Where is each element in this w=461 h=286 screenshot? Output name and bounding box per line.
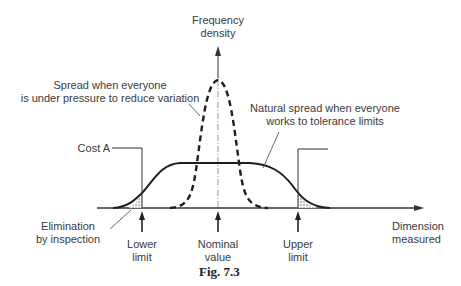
lower-limit-label-line2: limit <box>117 251 167 264</box>
x-axis-label: Dimension measured <box>392 220 458 246</box>
nominal-value-label: Nominal value <box>188 238 248 264</box>
figure-caption: Fig. 7.3 <box>199 264 240 280</box>
x-axis-arrowhead-icon <box>414 205 424 211</box>
y-axis-label: Frequency density <box>188 14 248 40</box>
narrow-spread-label: Spread when everyone is under pressure t… <box>20 79 200 105</box>
y-axis-label-line1: Frequency <box>188 14 248 27</box>
narrow-spread-label-line2: is under pressure to reduce variation <box>20 92 200 105</box>
lower-limit-line <box>112 148 142 208</box>
natural-spread-label-line2: works to tolerance limits <box>240 115 410 128</box>
lower-limit-label-line1: Lower <box>117 238 167 251</box>
upper-limit-arrow-icon <box>295 211 301 232</box>
elimination-leader <box>110 210 131 229</box>
elimination-label: Elimination by inspection <box>28 220 108 246</box>
elimination-label-line1: Elimination <box>28 220 108 233</box>
natural-spread-leader <box>263 132 279 168</box>
y-axis <box>215 46 221 208</box>
y-axis-arrowhead-icon <box>215 46 221 56</box>
y-axis-label-line2: density <box>188 27 248 40</box>
lower-limit-label: Lower limit <box>117 238 167 264</box>
natural-spread-label: Natural spread when everyone works to to… <box>240 102 410 128</box>
nominal-value-label-line1: Nominal <box>188 238 248 251</box>
nominal-value-arrow-icon <box>215 211 221 232</box>
lower-limit-arrow-icon <box>139 211 145 232</box>
upper-limit-label-line2: limit <box>273 251 323 264</box>
narrow-spread-leader <box>189 104 200 116</box>
upper-limit-label: Upper limit <box>273 238 323 264</box>
upper-limit-label-line1: Upper <box>273 238 323 251</box>
upper-limit-line <box>298 149 328 208</box>
natural-spread-label-line1: Natural spread when everyone <box>240 102 410 115</box>
elimination-label-line2: by inspection <box>28 233 108 246</box>
nominal-value-label-line2: value <box>188 251 248 264</box>
narrow-spread-label-line1: Spread when everyone <box>20 79 200 92</box>
natural-spread-curve <box>113 163 330 208</box>
x-axis-label-line1: Dimension <box>392 220 458 233</box>
cost-a-label: Cost A <box>74 142 110 155</box>
x-axis-label-line2: measured <box>392 233 458 246</box>
